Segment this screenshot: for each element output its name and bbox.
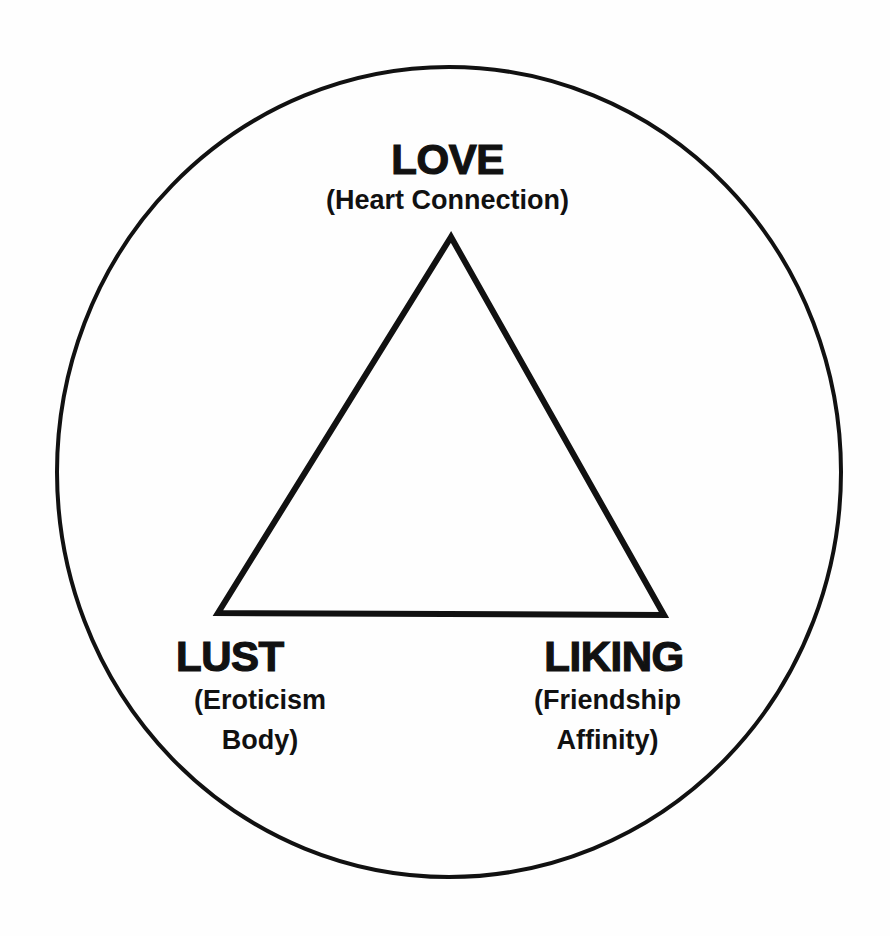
subtitle-line: Body) (170, 720, 350, 760)
subtitle-line: (Heart Connection) (270, 180, 625, 220)
triangle-shape (218, 237, 664, 615)
vertex-title-love: LOVE (345, 139, 550, 181)
subtitle-line: Affinity) (505, 720, 710, 760)
subtitle-line: (Eroticism (170, 680, 350, 720)
vertex-title-liking: LIKING (526, 636, 702, 678)
vertex-subtitle-liking: (Friendship Affinity) (505, 680, 710, 760)
vertex-subtitle-love: (Heart Connection) (270, 180, 625, 220)
subtitle-line: (Friendship (505, 680, 710, 720)
vertex-title-lust: LUST (176, 636, 302, 678)
vertex-subtitle-lust: (Eroticism Body) (170, 680, 350, 760)
